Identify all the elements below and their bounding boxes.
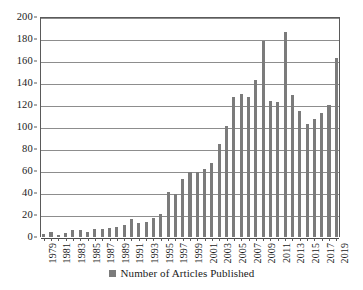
bar-1990 [123,225,126,237]
x-tick-mark-2006 [241,238,242,241]
x-tick-mark-1986 [95,238,96,241]
y-tick-mark-120 [34,105,37,106]
bar-1998 [181,179,184,237]
x-tick-mark-2019 [336,238,337,241]
x-tick-label-2017: 2017 [326,243,336,263]
y-tick-label-80: 80 [22,144,33,155]
x-tick-mark-2017 [322,238,323,241]
x-tick-label-2013: 2013 [296,243,306,263]
y-tick-mark-40 [34,193,37,194]
bar-2009 [262,41,265,237]
x-tick-mark-2014 [300,238,301,241]
x-tick-label-2009: 2009 [267,243,277,263]
x-tick-label-2001: 2001 [209,243,219,263]
y-tick-mark-80 [34,149,37,150]
y-tick-mark-140 [34,83,37,84]
x-tick-mark-1993 [146,238,147,241]
bar-2019 [335,58,338,237]
x-tick-label-1993: 1993 [150,243,160,263]
x-tick-mark-2016 [314,238,315,241]
bar-2000 [196,172,199,237]
x-tick-mark-1985 [88,238,89,241]
y-tick-mark-60 [34,171,37,172]
y-tick-mark-100 [34,127,37,128]
bar-1996 [167,192,170,237]
bar-2002 [210,163,213,237]
legend-color-swatch [109,270,116,277]
y-tick-mark-20 [34,215,37,216]
bar-1989 [115,227,118,237]
x-tick-mark-2004 [227,238,228,241]
x-tick-mark-2018 [329,238,330,241]
bar-1988 [108,228,111,237]
bar-2006 [240,94,243,237]
bar-2003 [218,144,221,238]
bar-2001 [203,169,206,237]
x-tick-mark-1981 [58,238,59,241]
x-tick-mark-1991 [131,238,132,241]
legend-label: Number of Articles Published [121,268,255,279]
x-axis: 1979198119831985198719891991199319951997… [40,238,340,288]
y-tick-label-60: 60 [22,166,33,177]
bar-1987 [101,229,104,237]
y-tick-label-180: 180 [17,34,33,45]
bars-container [40,17,340,237]
bar-1983 [71,230,74,237]
y-axis: 020406080100120140160180200 [0,17,37,237]
x-tick-mark-1992 [139,238,140,241]
x-tick-mark-2009 [263,238,264,241]
bar-1991 [130,219,133,237]
x-tick-label-1987: 1987 [106,243,116,263]
bar-2010 [269,101,272,237]
x-tick-mark-1988 [110,238,111,241]
y-tick-label-120: 120 [17,100,33,111]
bar-2016 [313,119,316,237]
x-tick-mark-2011 [278,238,279,241]
y-tick-mark-200 [34,17,37,18]
bar-1993 [145,222,148,237]
y-tick-label-160: 160 [17,56,33,67]
x-tick-label-2005: 2005 [238,243,248,263]
x-tick-label-1985: 1985 [92,243,102,263]
bar-1984 [79,230,82,237]
chart-legend: Number of Articles Published [0,268,363,279]
bar-1985 [86,232,89,238]
bar-1994 [152,218,155,237]
x-tick-mark-2010 [270,238,271,241]
x-tick-mark-1983 [73,238,74,241]
bar-2018 [327,105,330,237]
bar-2011 [276,102,279,237]
bar-1979 [42,234,45,237]
x-tick-mark-1982 [66,238,67,241]
y-tick-label-20: 20 [22,210,33,221]
bar-1980 [49,232,52,238]
y-tick-label-140: 140 [17,78,33,89]
x-tick-mark-2001 [205,238,206,241]
x-tick-mark-2013 [292,238,293,241]
bar-1981 [57,235,60,237]
bar-1992 [137,223,140,237]
x-tick-mark-1989 [117,238,118,241]
x-tick-label-1979: 1979 [48,243,58,263]
x-tick-label-2003: 2003 [223,243,233,263]
bar-2007 [247,97,250,237]
x-tick-mark-1987 [102,238,103,241]
bar-2013 [291,95,294,237]
y-tick-mark-0 [34,237,37,238]
x-tick-label-2015: 2015 [311,243,321,263]
y-tick-label-40: 40 [22,188,33,199]
bar-2008 [254,80,257,237]
x-tick-mark-2008 [256,238,257,241]
x-tick-mark-1997 [175,238,176,241]
x-tick-mark-2005 [234,238,235,241]
x-tick-label-1995: 1995 [165,243,175,263]
x-tick-label-1981: 1981 [62,243,72,263]
bar-2015 [306,124,309,237]
y-tick-mark-160 [34,61,37,62]
x-tick-label-1997: 1997 [179,243,189,263]
x-tick-mark-1979 [44,238,45,241]
x-tick-label-1989: 1989 [121,243,131,263]
bar-1982 [64,233,67,237]
x-tick-label-1983: 1983 [77,243,87,263]
x-tick-mark-1995 [161,238,162,241]
